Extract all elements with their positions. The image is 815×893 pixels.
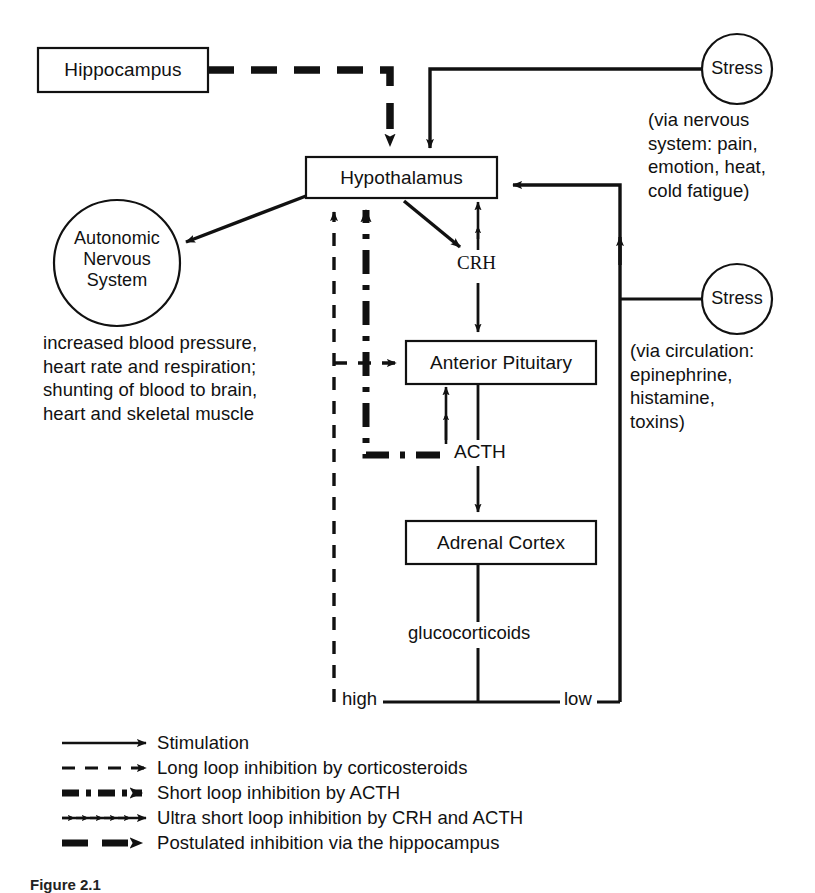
- edge-hypothalamus-to-autonomic: [186, 196, 306, 242]
- low-label: low: [562, 688, 594, 710]
- note-circulation: (via circulation: epinephrine, histamine…: [630, 339, 754, 434]
- legend-label-postulated: Postulated inhibition via the hippocampu…: [157, 832, 499, 854]
- edge-short-loop-inhibition: [366, 210, 440, 455]
- note-nervous-line-1: (via nervous: [648, 108, 766, 132]
- edge-hippocampus-to-hypothalamus: [208, 70, 390, 146]
- autonomic-nervous-system-label: Autonomic Nervous System: [52, 228, 182, 292]
- edge-hypothalamus-to-crh: [404, 201, 460, 247]
- legend-label-ultra-short-loop: Ultra short loop inhibition by CRH and A…: [157, 807, 523, 829]
- stress-nervous-label: Stress: [702, 58, 772, 79]
- note-autonomic-line-4: heart and skeletal muscle: [43, 402, 257, 426]
- autonomic-line-1: Autonomic: [52, 228, 182, 249]
- stress-circulation-label: Stress: [702, 288, 772, 309]
- note-nervous-system: (via nervous system: pain, emotion, heat…: [648, 108, 766, 203]
- acth-label: ACTH: [452, 441, 508, 463]
- legend-label-stimulation: Stimulation: [157, 732, 249, 754]
- autonomic-line-2: Nervous: [52, 249, 182, 270]
- figure-caption: Figure 2.1: [30, 876, 101, 893]
- legend-label-short-loop: Short loop inhibition by ACTH: [157, 782, 400, 804]
- autonomic-line-3: System: [52, 270, 182, 291]
- adrenal-cortex-label: Adrenal Cortex: [406, 532, 596, 554]
- note-circulation-line-2: epinephrine,: [630, 363, 754, 387]
- anterior-pituitary-label: Anterior Pituitary: [406, 352, 596, 374]
- note-autonomic-line-2: heart rate and respiration;: [43, 355, 257, 379]
- note-nervous-line-2: system: pain,: [648, 132, 766, 156]
- note-nervous-line-4: cold fatigue): [648, 179, 766, 203]
- hippocampus-label: Hippocampus: [38, 59, 208, 81]
- hypothalamus-label: Hypothalamus: [306, 167, 497, 189]
- high-label: high: [340, 688, 379, 710]
- legend-label-long-loop: Long loop inhibition by corticosteroids: [157, 757, 467, 779]
- glucocorticoids-label: glucocorticoids: [406, 622, 532, 644]
- note-circulation-line-1: (via circulation:: [630, 339, 754, 363]
- note-autonomic-line-3: shunting of blood to brain,: [43, 378, 257, 402]
- note-circulation-line-4: toxins): [630, 410, 754, 434]
- note-circulation-line-3: histamine,: [630, 386, 754, 410]
- note-autonomic-effects: increased blood pressure, heart rate and…: [43, 331, 257, 426]
- note-nervous-line-3: emotion, heat,: [648, 155, 766, 179]
- note-autonomic-line-1: increased blood pressure,: [43, 331, 257, 355]
- crh-label: CRH: [455, 252, 498, 274]
